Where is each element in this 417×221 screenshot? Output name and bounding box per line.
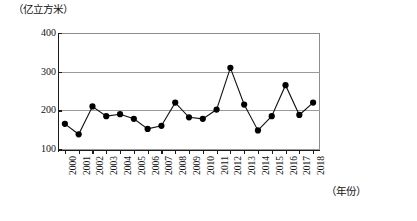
x-tick-mark-2008 xyxy=(175,150,176,154)
x-tick-label-2005: 2005 xyxy=(138,156,148,175)
x-tick-label-2018: 2018 xyxy=(317,156,327,175)
series-line xyxy=(65,68,313,135)
x-tick-mark-2012 xyxy=(230,150,231,154)
data-point-2002 xyxy=(89,103,95,109)
x-tick-label-2003: 2003 xyxy=(110,156,120,175)
x-tick-label-2002: 2002 xyxy=(96,156,106,175)
data-point-2015 xyxy=(269,113,275,119)
x-tick-mark-2014 xyxy=(258,150,259,154)
x-tick-label-2001: 2001 xyxy=(83,156,93,175)
x-tick-label-2009: 2009 xyxy=(193,156,203,175)
x-tick-label-2010: 2010 xyxy=(207,156,217,175)
x-tick-label-2007: 2007 xyxy=(165,156,175,175)
data-point-2003 xyxy=(103,113,109,119)
data-point-2000 xyxy=(62,121,68,127)
data-point-2013 xyxy=(241,101,247,107)
data-point-2007 xyxy=(158,123,164,129)
data-point-2010 xyxy=(200,116,206,122)
x-axis-unit-label: （年份） xyxy=(326,183,366,198)
data-point-2017 xyxy=(296,112,302,118)
data-point-2014 xyxy=(255,127,261,133)
x-tick-mark-2013 xyxy=(244,150,245,154)
x-tick-mark-2002 xyxy=(92,150,93,154)
data-point-2005 xyxy=(131,116,137,122)
x-tick-mark-2005 xyxy=(134,150,135,154)
x-tick-mark-2006 xyxy=(148,150,149,154)
x-tick-label-2014: 2014 xyxy=(262,156,272,175)
x-tick-label-2004: 2004 xyxy=(124,156,134,175)
data-point-2016 xyxy=(282,82,288,88)
x-tick-mark-2010 xyxy=(203,150,204,154)
x-tick-mark-2007 xyxy=(161,150,162,154)
x-tick-label-2012: 2012 xyxy=(234,156,244,175)
x-tick-mark-2004 xyxy=(120,150,121,154)
x-tick-label-2017: 2017 xyxy=(303,156,313,175)
y-tick-mark-400 xyxy=(58,33,62,34)
x-tick-label-2015: 2015 xyxy=(276,156,286,175)
data-point-2018 xyxy=(310,100,316,106)
data-point-2009 xyxy=(186,114,192,120)
data-point-2001 xyxy=(76,131,82,137)
x-tick-label-2006: 2006 xyxy=(152,156,162,175)
data-point-2006 xyxy=(145,126,151,132)
x-tick-label-2008: 2008 xyxy=(179,156,189,175)
data-point-2012 xyxy=(227,65,233,71)
x-tick-mark-2011 xyxy=(217,150,218,154)
data-point-2011 xyxy=(213,106,219,112)
data-point-2004 xyxy=(117,111,123,117)
x-tick-mark-2016 xyxy=(286,150,287,154)
x-tick-mark-2009 xyxy=(189,150,190,154)
x-tick-mark-2018 xyxy=(313,150,314,154)
x-tick-mark-2000 xyxy=(65,150,66,154)
x-tick-mark-2001 xyxy=(79,150,80,154)
x-tick-label-2011: 2011 xyxy=(221,156,231,175)
line-chart: （亿立方米） 100200300400 20002001200220032004… xyxy=(0,0,417,221)
data-point-2008 xyxy=(172,100,178,106)
x-tick-mark-2003 xyxy=(106,150,107,154)
x-tick-label-2013: 2013 xyxy=(248,156,258,175)
y-tick-mark-100 xyxy=(58,149,62,150)
y-tick-mark-300 xyxy=(58,72,62,73)
x-tick-label-2016: 2016 xyxy=(290,156,300,175)
x-tick-label-2000: 2000 xyxy=(69,156,79,175)
x-tick-mark-2017 xyxy=(299,150,300,154)
y-tick-mark-200 xyxy=(58,110,62,111)
x-tick-mark-2015 xyxy=(272,150,273,154)
